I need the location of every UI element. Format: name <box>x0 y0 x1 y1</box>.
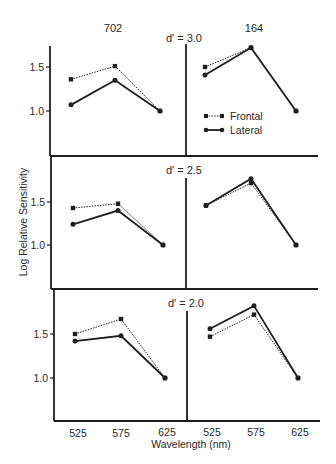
lateral-marker <box>208 326 213 331</box>
x-axis-label: Wavelength (nm) <box>151 438 231 450</box>
y-axis-label: Log Relative Sensitivity <box>17 167 29 276</box>
lateral-line <box>205 48 296 111</box>
lateral-line <box>73 211 163 245</box>
lateral-marker <box>249 176 254 181</box>
lateral-marker <box>161 243 166 248</box>
legend-lateral-label: Lateral <box>230 124 262 136</box>
lateral-marker <box>73 339 78 344</box>
frontal-marker <box>116 202 120 206</box>
panel-164-0 <box>203 45 299 113</box>
svg-text:1.0: 1.0 <box>33 372 48 384</box>
lateral-marker <box>296 376 301 381</box>
frontal-line <box>210 315 298 378</box>
svg-text:1.0: 1.0 <box>29 105 44 117</box>
sensitivity-chart: 702 164 d′ = 3.0 d′ = 2.5 d′ = 2.0 1.5 1… <box>0 0 336 464</box>
svg-text:575: 575 <box>247 426 265 438</box>
row-label-d3: d′ = 3.0 <box>166 32 202 44</box>
svg-text:1.5: 1.5 <box>29 61 44 73</box>
axes-frame <box>50 44 320 421</box>
lateral-marker <box>252 303 257 308</box>
y-tick-labels: 1.5 1.0 1.5 1.0 1.5 1.0 <box>29 61 48 384</box>
svg-text:525: 525 <box>203 426 221 438</box>
legend-frontal-label: Frontal <box>230 110 263 122</box>
lateral-marker <box>294 109 299 114</box>
frontal-line <box>205 48 296 111</box>
frontal-marker <box>71 206 75 210</box>
panel-702-2 <box>73 317 168 381</box>
svg-text:525: 525 <box>69 427 87 439</box>
svg-text:575: 575 <box>112 427 130 439</box>
row-label-d25: d′ = 2.5 <box>166 164 202 176</box>
panel-164-1 <box>204 176 299 247</box>
lateral-line <box>206 179 296 245</box>
lateral-marker <box>116 208 121 213</box>
frontal-line <box>75 319 165 378</box>
lateral-line <box>71 80 160 111</box>
frontal-marker <box>208 334 212 338</box>
frontal-line <box>206 183 296 245</box>
lateral-marker <box>294 243 299 248</box>
panel-702-1 <box>71 202 166 248</box>
panel-164-2 <box>208 303 301 380</box>
column-label-702: 702 <box>104 22 122 34</box>
lateral-marker <box>204 203 209 208</box>
legend-lateral-marker <box>204 128 209 133</box>
lateral-marker <box>113 78 118 83</box>
svg-text:1.5: 1.5 <box>30 196 45 208</box>
frontal-marker <box>203 65 207 69</box>
frontal-marker <box>69 77 73 81</box>
lateral-marker <box>163 376 168 381</box>
lateral-marker <box>71 222 76 227</box>
lateral-marker <box>69 102 74 107</box>
lateral-marker <box>249 45 254 50</box>
row-label-d2: d′ = 2.0 <box>168 297 204 309</box>
legend: Frontal Lateral <box>204 110 263 136</box>
frontal-marker <box>119 317 123 321</box>
lateral-line <box>75 336 165 378</box>
column-label-164: 164 <box>245 22 263 34</box>
plot-series <box>69 45 301 380</box>
panel-702-0 <box>69 64 163 114</box>
lateral-marker <box>158 109 163 114</box>
lateral-marker <box>203 72 208 77</box>
svg-text:625: 625 <box>158 426 176 438</box>
legend-frontal-marker <box>204 114 208 118</box>
svg-text:625: 625 <box>291 426 309 438</box>
lateral-marker <box>119 333 124 338</box>
frontal-marker <box>252 312 256 316</box>
frontal-marker <box>113 64 117 68</box>
frontal-line <box>71 66 160 111</box>
figure: 702 164 d′ = 3.0 d′ = 2.5 d′ = 2.0 1.5 1… <box>0 0 336 464</box>
svg-text:1.5: 1.5 <box>33 328 48 340</box>
svg-text:1.0: 1.0 <box>30 239 45 251</box>
frontal-marker <box>73 332 77 336</box>
